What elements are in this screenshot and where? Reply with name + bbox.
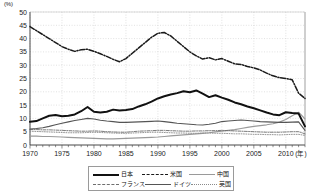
svg-text:20: 20	[19, 88, 27, 95]
svg-text:2010: 2010	[278, 150, 294, 157]
svg-text:2005: 2005	[246, 150, 262, 157]
x-axis-ticks	[30, 145, 305, 149]
svg-text:45: 45	[19, 22, 27, 29]
legend-label-japan: 日本	[121, 170, 133, 178]
y-axis-tick-labels: 05101520253035404550	[19, 9, 27, 149]
legend-label-france: フランス	[121, 180, 145, 188]
svg-text:5: 5	[23, 128, 27, 135]
legend-label-usa: 米国	[170, 170, 182, 178]
legend-label-germany: ドイツ	[173, 180, 191, 188]
series-line-米国	[30, 27, 305, 99]
legend-swatch-uk-icon	[191, 181, 217, 187]
legend-item-japan: 日本	[93, 170, 142, 178]
line-chart: (%) 05101520253035404550 197019751980198…	[0, 0, 322, 195]
svg-text:1980: 1980	[86, 150, 102, 157]
svg-text:40: 40	[19, 35, 27, 42]
legend-swatch-france-icon	[93, 181, 119, 187]
legend-item-china: 中国	[189, 170, 230, 178]
legend-swatch-usa-icon	[142, 171, 168, 177]
x-axis-tick-labels: 197019751980198519901995200020052010	[22, 150, 293, 157]
legend-item-germany: ドイツ	[145, 180, 191, 188]
svg-text:1995: 1995	[182, 150, 198, 157]
svg-text:15: 15	[19, 102, 27, 109]
legend-row-2: フランス ドイツ 英国	[93, 179, 230, 189]
svg-text:35: 35	[19, 48, 27, 55]
legend-swatch-china-icon	[189, 171, 215, 177]
svg-text:50: 50	[19, 9, 27, 16]
svg-text:1970: 1970	[22, 150, 38, 157]
svg-text:1985: 1985	[118, 150, 134, 157]
legend-item-france: フランス	[93, 180, 145, 188]
svg-text:1990: 1990	[150, 150, 166, 157]
svg-text:30: 30	[19, 62, 27, 69]
legend-item-uk: 英国	[191, 180, 231, 188]
legend-label-china: 中国	[217, 170, 229, 178]
legend-swatch-germany-icon	[145, 181, 171, 187]
svg-text:10: 10	[19, 115, 27, 122]
x-axis-unit-label: (年)	[295, 149, 306, 158]
data-series	[30, 27, 305, 139]
legend-label-uk: 英国	[219, 180, 231, 188]
svg-text:2000: 2000	[214, 150, 230, 157]
legend-item-usa: 米国	[142, 170, 189, 178]
legend-swatch-japan-icon	[93, 171, 119, 177]
svg-text:1975: 1975	[54, 150, 70, 157]
svg-text:25: 25	[19, 75, 27, 82]
legend-row-1: 日本 米国 中国	[93, 169, 230, 179]
series-line-ドイツ	[30, 118, 305, 130]
chart-legend: 日本 米国 中国 フランス ドイツ 英国	[88, 166, 234, 191]
svg-text:0: 0	[23, 142, 27, 149]
